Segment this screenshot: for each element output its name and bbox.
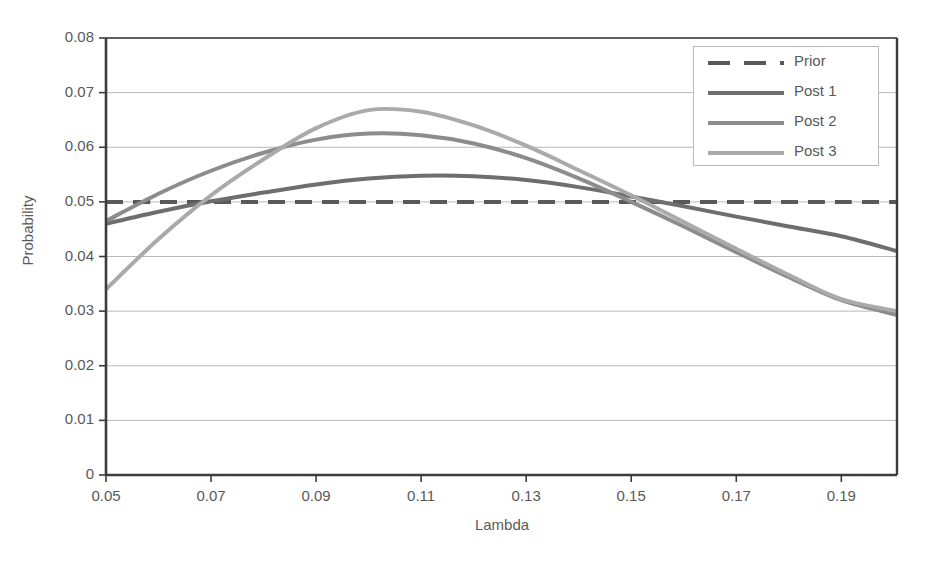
legend-item-post-2[interactable]: Post 2 [694, 108, 880, 138]
y-tick-label: 0.02 [28, 356, 94, 373]
x-tick-label: 0.19 [806, 487, 876, 504]
legend-swatch-icon [708, 61, 784, 65]
chart-legend: PriorPost 1Post 2Post 3 [693, 46, 879, 166]
y-axis-title: Probability [19, 166, 36, 296]
legend-item-prior[interactable]: Prior [694, 48, 880, 78]
legend-swatch-icon [708, 121, 784, 125]
legend-item-post-1[interactable]: Post 1 [694, 78, 880, 108]
chart-container: 00.010.020.030.040.050.060.070.08 0.050.… [0, 0, 925, 565]
legend-label: Prior [794, 52, 826, 69]
x-tick-label: 0.15 [596, 487, 666, 504]
legend-item-post-3[interactable]: Post 3 [694, 138, 880, 168]
y-tick-label: 0.01 [28, 410, 94, 427]
y-tick-label: 0.04 [28, 247, 94, 264]
y-tick-label: 0.08 [28, 28, 94, 45]
y-tick-label: 0.07 [28, 83, 94, 100]
x-tick-label: 0.05 [71, 487, 141, 504]
x-tick-label: 0.13 [491, 487, 561, 504]
y-tick-label: 0.05 [28, 192, 94, 209]
legend-swatch-icon [708, 151, 784, 155]
x-tick-label: 0.11 [386, 487, 456, 504]
x-tick-label: 0.09 [281, 487, 351, 504]
x-tick-label: 0.07 [176, 487, 246, 504]
y-tick-label: 0.06 [28, 137, 94, 154]
legend-swatch-icon [708, 91, 784, 95]
legend-label: Post 2 [794, 112, 837, 129]
legend-label: Post 3 [794, 142, 837, 159]
y-tick-label: 0 [28, 465, 94, 482]
x-axis-title: Lambda [402, 516, 602, 533]
y-tick-label: 0.03 [28, 301, 94, 318]
x-tick-label: 0.17 [701, 487, 771, 504]
legend-label: Post 1 [794, 82, 837, 99]
